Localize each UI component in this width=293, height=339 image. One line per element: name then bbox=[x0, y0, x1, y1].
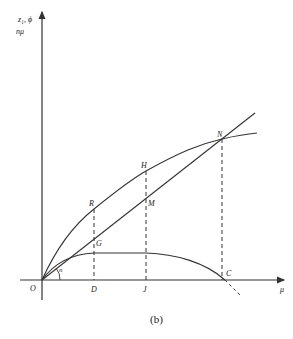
label-C: C bbox=[226, 269, 232, 278]
label-R: R bbox=[88, 199, 94, 208]
label-origin: O bbox=[30, 284, 36, 293]
figure-caption: (b) bbox=[150, 313, 163, 326]
label-M: M bbox=[147, 199, 156, 208]
label-N: N bbox=[216, 130, 223, 139]
label-G: G bbox=[96, 239, 102, 248]
x-axis-label: μ bbox=[279, 285, 284, 294]
label-J: J bbox=[143, 285, 147, 294]
label-H: H bbox=[140, 161, 148, 170]
angle-label: n bbox=[59, 266, 63, 274]
y-axis-label-1: z₁, ϕ bbox=[17, 15, 32, 24]
lower-curve bbox=[42, 253, 225, 280]
diagram-canvas: z₁, ϕ nμ μ O D J C R G H M N n (b) bbox=[0, 0, 293, 339]
lower-curve-extension bbox=[225, 280, 240, 295]
y-axis-label-2: nμ bbox=[16, 27, 24, 36]
straight-line-nmu bbox=[42, 113, 255, 280]
label-D: D bbox=[90, 285, 97, 294]
